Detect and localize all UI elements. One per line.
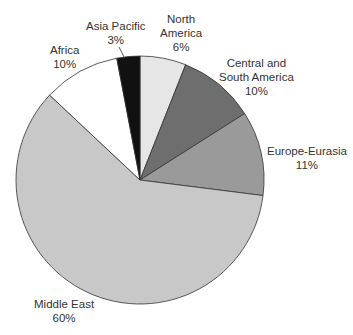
label-asia-pacific: Asia Pacific3% <box>86 19 145 47</box>
leader-line <box>119 47 124 57</box>
label-middle-east: Middle East60% <box>34 297 94 325</box>
label-north-america: NorthAmerica6% <box>160 12 202 54</box>
label-central-south-america: Central andSouth America10% <box>219 56 294 98</box>
label-africa: Africa10% <box>50 43 79 71</box>
label-europe-eurasia: Europe-Eurasia11% <box>267 144 347 172</box>
